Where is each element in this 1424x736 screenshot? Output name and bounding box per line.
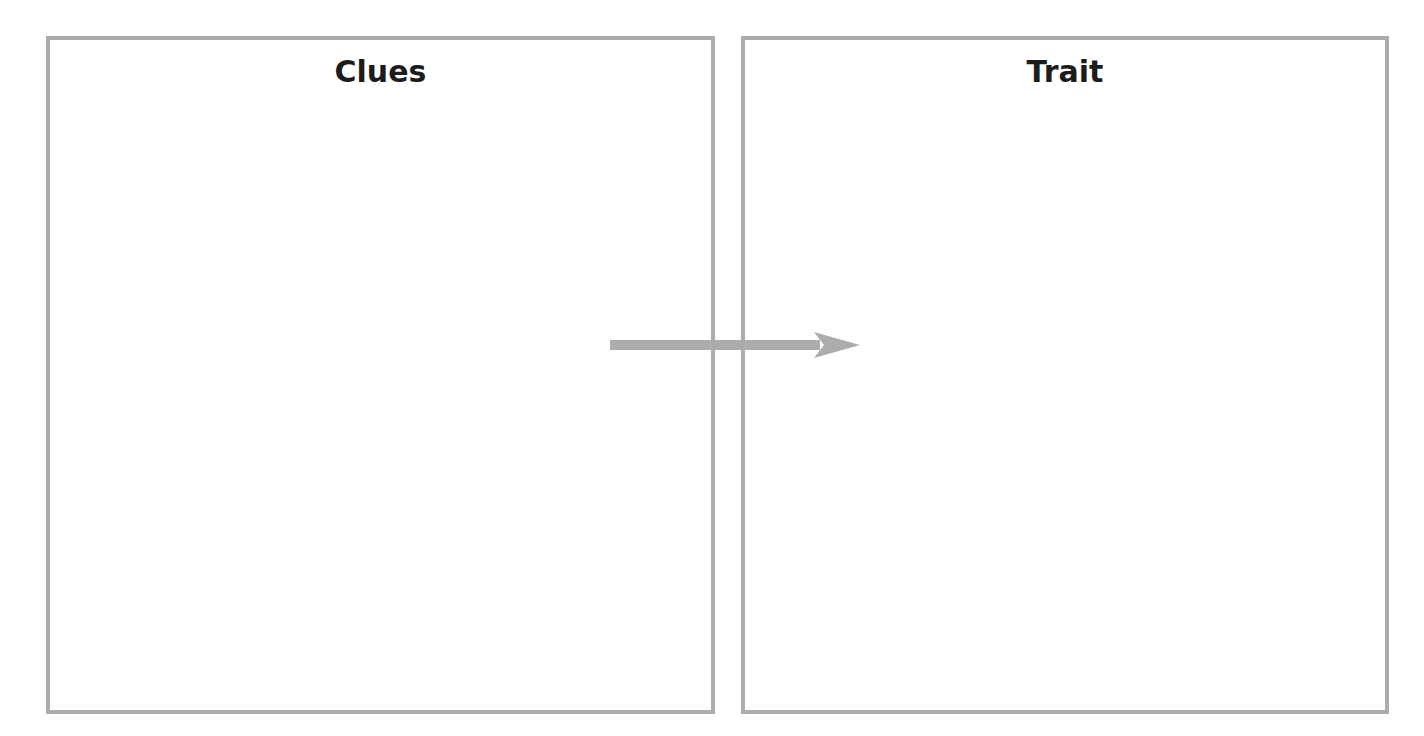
clues-title: Clues [50,54,711,89]
trait-box: Trait [741,36,1389,714]
trait-title: Trait [745,54,1385,89]
clues-box: Clues [46,36,715,714]
right-arrow-icon [610,330,862,360]
